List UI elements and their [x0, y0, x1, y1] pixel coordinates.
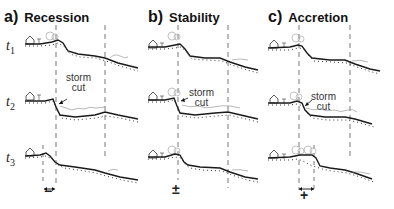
beach-profile-diagram — [0, 0, 394, 209]
panel-b-profiles — [148, 25, 258, 188]
panel-c-profiles — [268, 25, 380, 191]
panel-a-profiles — [25, 25, 138, 191]
